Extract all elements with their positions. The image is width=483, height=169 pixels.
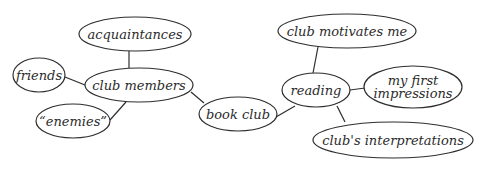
mind-map-canvas: acquaintances club members friends “enem… (0, 0, 483, 169)
node-club-motivates-me: club motivates me (278, 14, 416, 48)
node-acquaintances: acquaintances (79, 17, 191, 51)
node-enemies: “enemies” (36, 104, 110, 138)
node-reading: reading (282, 73, 350, 107)
node-book-club: book club (199, 97, 277, 131)
node-my-first-impressions: my first impressions (364, 66, 462, 108)
node-friends: friends (13, 58, 65, 92)
node-clubs-interpretations: club's interpretations (313, 122, 473, 158)
node-club-members: club members (85, 68, 193, 102)
